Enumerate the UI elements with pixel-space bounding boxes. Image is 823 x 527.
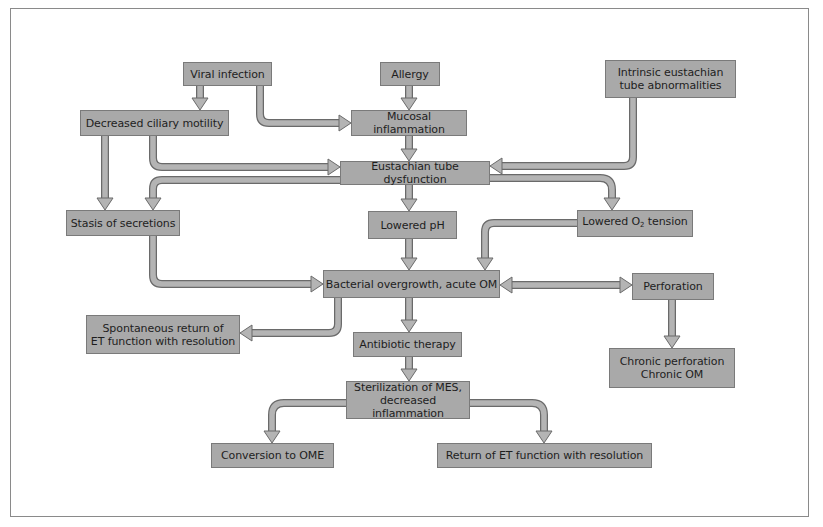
arrow-et-to-stasis	[145, 180, 340, 210]
arrow-sterilization-to-conversion	[264, 403, 346, 443]
node-mucosal-inflammation: Mucosal inflammation	[351, 110, 467, 136]
node-sterilization-of-mes: Sterilization of MES, decreased inflamma…	[346, 381, 470, 419]
node-viral-infection: Viral infection	[183, 62, 272, 86]
arrow-allergy-to-mucosal	[401, 86, 417, 110]
node-antibiotic-therapy: Antibiotic therapy	[353, 332, 462, 357]
arrow-o2-to-bacterial	[477, 223, 577, 270]
arrow-sterilization-to-return	[470, 403, 552, 443]
node-stasis-of-secretions: Stasis of secretions	[66, 210, 180, 236]
node-chronic-perforation-om: Chronic perforation Chronic OM	[609, 348, 735, 388]
node-allergy: Allergy	[380, 62, 440, 86]
node-eustachian-tube-dysfunction: Eustachian tube dysfunction	[340, 161, 490, 185]
node-decreased-ciliary-motility: Decreased ciliary motility	[80, 110, 229, 136]
arrow-mucosal-to-et	[401, 136, 417, 161]
arrow-antibiotic-to-sterilization	[401, 357, 417, 381]
arrow-bacterial-to-antibiotic	[401, 298, 417, 332]
arrow-viral-to-mucosal	[260, 86, 351, 131]
arrow-intrinsic-to-et	[490, 98, 633, 174]
arrow-stasis-to-bacterial	[153, 236, 323, 292]
node-return-of-et-function: Return of ET function with resolution	[437, 443, 652, 468]
arrow-perforation-to-chronic	[664, 300, 680, 348]
arrow-ph-to-bacterial	[401, 239, 417, 270]
arrow-bacterial-perforation-bidirectional	[500, 277, 632, 293]
arrow-et-to-o2	[490, 178, 620, 210]
node-lowered-ph: Lowered pH	[368, 211, 457, 239]
node-bacterial-overgrowth-acute-om: Bacterial overgrowth, acute OM	[323, 270, 500, 298]
node-perforation: Perforation	[632, 273, 714, 300]
arrow-bacterial-to-spontaneous	[240, 298, 338, 341]
arrow-ciliary-to-et	[153, 136, 340, 175]
node-intrinsic-et-abnormalities: Intrinsic eustachian tube abnormalities	[605, 60, 736, 98]
node-lowered-o2-tension: Lowered O2 tension	[577, 210, 693, 237]
arrow-et-to-ph	[401, 185, 417, 211]
node-spontaneous-return: Spontaneous return of ET function with r…	[86, 315, 240, 354]
arrow-ciliary-to-stasis	[97, 136, 113, 210]
arrow-viral-to-ciliary	[192, 86, 208, 110]
node-conversion-to-ome: Conversion to OME	[211, 443, 334, 468]
